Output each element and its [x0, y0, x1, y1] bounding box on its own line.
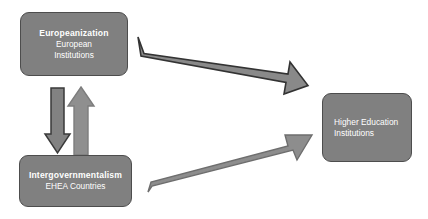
node-intergovernmentalism-subtitle-line1: EHEA Countries	[20, 181, 131, 192]
arrow-europeanization-to-higher-education	[138, 37, 308, 94]
arrow-europeanization-to-intergovernmentalism	[45, 88, 70, 153]
node-higher-education-subtitle-line2: Institutions	[323, 128, 411, 139]
node-intergovernmentalism[interactable]: Intergovernmentalism EHEA Countries	[19, 155, 132, 207]
node-intergovernmentalism-title: Intergovernmentalism	[20, 170, 131, 181]
arrow-intergovernmentalism-to-higher-education	[148, 135, 312, 192]
node-higher-education-subtitle-line1: Higher Education	[323, 117, 411, 128]
node-europeanization-title: Europeanization	[21, 28, 127, 39]
diagram-canvas: Europeanization European Institutions In…	[0, 0, 428, 219]
node-europeanization[interactable]: Europeanization European Institutions	[20, 12, 128, 76]
arrow-intergovernmentalism-to-europeanization	[68, 87, 94, 155]
node-higher-education[interactable]: Higher Education Institutions	[322, 93, 412, 162]
node-europeanization-subtitle-line2: Institutions	[21, 50, 127, 61]
node-europeanization-subtitle-line1: European	[21, 39, 127, 50]
